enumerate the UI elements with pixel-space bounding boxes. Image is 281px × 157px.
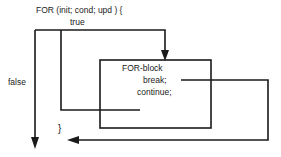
true-branch-label: true xyxy=(70,18,85,27)
false-branch-edge xyxy=(31,30,39,149)
flowchart-canvas xyxy=(0,0,281,157)
true-branch-edge xyxy=(35,30,169,61)
for-block-label: FOR-block xyxy=(122,64,163,73)
continue-statement-label: continue; xyxy=(137,88,172,97)
break-statement-label: break; xyxy=(143,76,167,85)
break-arrowhead xyxy=(67,136,79,144)
false-branch-arrowhead xyxy=(31,137,39,149)
for-header-label: FOR (init; cond; upd ) { xyxy=(36,6,122,15)
flowchart-diagram: FOR (init; cond; upd ) { true false FOR-… xyxy=(0,0,281,157)
false-branch-label: false xyxy=(8,78,26,87)
close-brace-label: } xyxy=(58,124,61,134)
